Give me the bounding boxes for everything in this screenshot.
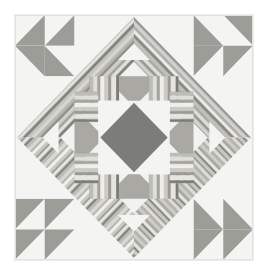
corner-unit-top-right [194,15,254,76]
image-canvas: Grayscale Patchwork Quilt Block Symmetri… [0,0,266,276]
quilt-block [15,15,253,260]
corner-unit-top-left [15,15,75,76]
ring-right-bottom [170,153,194,184]
center-medallion [98,101,169,175]
ring-left-top [75,92,99,123]
quilt-block-svg [15,15,253,260]
corner-unit-bottom-left [15,199,75,260]
ring-left-bottom [75,153,99,184]
ring-right-top [170,92,194,123]
corner-unit-bottom-right [194,199,254,260]
